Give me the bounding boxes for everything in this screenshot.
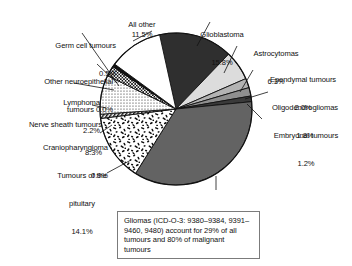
label-all-other: All other 11.5% bbox=[108, 11, 168, 49]
label-pituitary-value: 14.1% bbox=[36, 227, 128, 236]
label-ependymal-name: Ependymal tumours bbox=[255, 75, 351, 84]
label-pituitary: Tumours of the pituitary 14.1% bbox=[36, 152, 128, 255]
label-pituitary-line2: pituitary bbox=[36, 199, 128, 208]
label-embryonal: Embryonal tumours 1.2% bbox=[260, 112, 352, 187]
label-oligodendrogliomas-name: Oligodendrogliomas bbox=[258, 103, 352, 112]
pie-chart-figure: Glioblastoma 15.8%Astrocytomas 6.3%Epend… bbox=[0, 0, 352, 266]
label-all-other-name: All other bbox=[128, 20, 155, 29]
label-all-other-value: 11.5% bbox=[132, 30, 153, 39]
label-embryonal-name: Embryonal tumours bbox=[260, 131, 352, 140]
gliomas-caption-box: Gliomas (ICD-O-3: 9380–9384, 9391–9460, … bbox=[117, 211, 260, 259]
gliomas-caption-text: Gliomas (ICD-O-3: 9380–9384, 9391–9460, … bbox=[124, 216, 253, 254]
label-craniopharyngioma-name: Craniopharyngioma bbox=[8, 143, 108, 152]
label-pituitary-line1: Tumours of the bbox=[36, 171, 128, 180]
label-germ-cell-name: Germ cell tumours bbox=[18, 41, 116, 50]
label-embryonal-value: 1.2% bbox=[260, 159, 352, 168]
